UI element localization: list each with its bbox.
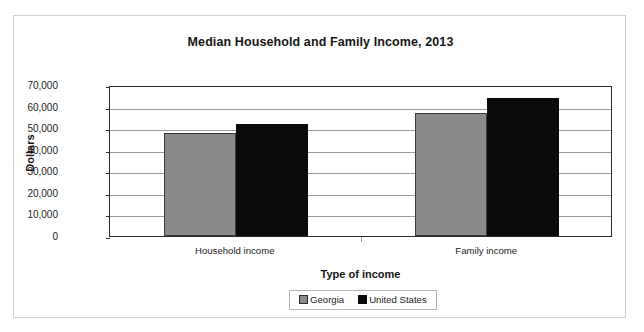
bar [487, 98, 559, 236]
legend-item: United States [358, 294, 427, 305]
legend-label: Georgia [310, 294, 344, 305]
legend-swatch-icon [299, 295, 308, 304]
y-axis-tick-mark [106, 173, 110, 174]
x-axis-title: Type of income [109, 268, 612, 280]
bar [415, 113, 487, 236]
chart-frame: Median Household and Family Income, 2013… [13, 15, 626, 318]
y-axis-tick-label: 70,000 [0, 80, 58, 91]
y-axis-tick-label: 30,000 [0, 166, 58, 177]
legend-swatch-icon [358, 295, 367, 304]
x-axis-tick-mark [361, 237, 362, 242]
y-axis-tick-mark [106, 195, 110, 196]
legend-item: Georgia [299, 294, 344, 305]
y-axis-tick-mark [106, 109, 110, 110]
y-axis-tick-mark [106, 130, 110, 131]
y-axis-tick-label: 50,000 [0, 123, 58, 134]
y-axis-tick-label: 60,000 [0, 102, 58, 113]
x-axis-tick-label: Household income [109, 245, 361, 256]
y-axis-tick-label: 20,000 [0, 188, 58, 199]
bar [236, 124, 308, 236]
y-axis-tick-label: 40,000 [0, 145, 58, 156]
y-axis-tick-label: 0 [0, 231, 58, 242]
chart-title: Median Household and Family Income, 2013 [14, 35, 627, 49]
y-axis-tick-mark [106, 87, 110, 88]
y-axis-tick-mark [106, 152, 110, 153]
chart-legend: GeorgiaUnited States [289, 290, 437, 310]
y-axis-tick-mark [106, 216, 110, 217]
plot-area: 010,00020,00030,00040,00050,00060,00070,… [109, 86, 612, 237]
legend-label: United States [369, 294, 427, 305]
y-axis-tick-mark [106, 238, 110, 239]
x-axis-tick-label: Family income [361, 245, 613, 256]
bar [164, 133, 236, 236]
y-axis-tick-label: 10,000 [0, 209, 58, 220]
